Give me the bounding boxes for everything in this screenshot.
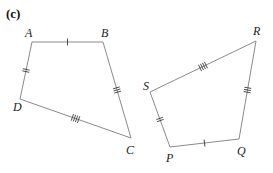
vertex-label-r: R xyxy=(252,24,261,38)
quadrilateral-abcd: ABCD xyxy=(12,26,135,157)
vertex-label-d: D xyxy=(12,100,22,114)
congruent-quadrilaterals-diagram: (c) ABCDPQRS xyxy=(0,0,273,173)
tick-marks-PQ xyxy=(204,140,205,147)
vertex-label-b: B xyxy=(101,26,109,40)
vertex-label-p: P xyxy=(165,151,174,165)
vertex-label-a: A xyxy=(24,26,33,40)
quadrilateral-pqrs: PQRS xyxy=(143,24,261,165)
tick-marks-BC xyxy=(113,87,121,93)
shapes-layer: ABCDPQRS xyxy=(12,24,261,165)
vertex-label-s: S xyxy=(143,79,149,93)
vertex-label-c: C xyxy=(126,143,135,157)
tick-marks-QR xyxy=(244,87,252,93)
edge-DA xyxy=(20,42,32,99)
figure-part-label: (c) xyxy=(6,6,20,21)
edge-SP xyxy=(150,92,170,147)
edge-CD xyxy=(20,99,131,138)
edge-RS xyxy=(150,41,256,92)
vertex-label-q: Q xyxy=(237,144,246,158)
